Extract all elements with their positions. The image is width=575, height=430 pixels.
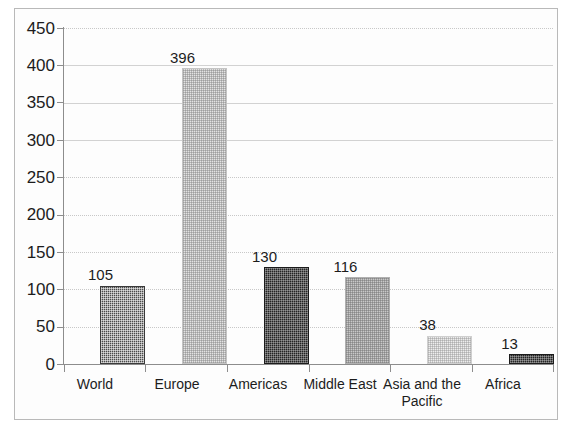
- category-label-europe: Europe: [136, 376, 218, 393]
- y-tick-label: 400: [15, 57, 55, 74]
- bar-americas[interactable]: [264, 267, 309, 364]
- category-label-asia-pacific: Asia and the Pacific: [381, 376, 463, 410]
- category-label-line: Europe: [136, 376, 218, 393]
- chart-frame: 450 400 350 300 250 200 150 100 50 0: [14, 8, 558, 420]
- x-axis-tick: [64, 365, 65, 372]
- bar-asia-pacific[interactable]: [427, 336, 472, 364]
- y-tick-label: 250: [15, 169, 55, 186]
- category-label-middle-east: Middle East: [299, 376, 381, 393]
- y-axis-labels: 450 400 350 300 250 200 150 100 50 0: [15, 9, 55, 430]
- y-tick-label: 200: [15, 206, 55, 223]
- y-tick-label: 350: [15, 94, 55, 111]
- bar-europe[interactable]: [182, 68, 227, 364]
- plot-area: [64, 28, 553, 364]
- bar-value-europe: 396: [160, 50, 205, 65]
- category-label-line: Middle East: [299, 376, 381, 393]
- bar-africa[interactable]: [509, 354, 554, 364]
- category-label-line: Asia and the: [381, 376, 463, 393]
- gridline-150: [64, 252, 553, 253]
- x-axis-tick: [227, 365, 228, 372]
- x-axis-tick: [390, 365, 391, 372]
- gridline-450: [64, 28, 553, 29]
- category-label-line: Americas: [217, 376, 299, 393]
- category-label-americas: Americas: [217, 376, 299, 393]
- bar-middle-east[interactable]: [345, 277, 390, 364]
- y-tick-label: 0: [15, 356, 55, 373]
- gridline-350: [64, 103, 553, 104]
- gridline-400: [64, 65, 553, 66]
- category-label-africa: Africa: [462, 376, 544, 393]
- y-tick-label: 450: [15, 20, 55, 37]
- bar-value-americas: 130: [242, 249, 287, 264]
- gridline-250: [64, 177, 553, 178]
- category-label-line: World: [54, 376, 136, 393]
- x-axis-tick: [145, 365, 146, 372]
- y-tick-label: 150: [15, 244, 55, 261]
- bar-value-asia-pacific: 38: [405, 317, 450, 332]
- y-tick-label: 50: [15, 318, 55, 335]
- bar-value-africa: 13: [487, 336, 532, 351]
- bar-value-middle-east: 116: [323, 259, 368, 274]
- bar-value-world: 105: [78, 267, 123, 282]
- gridline-200: [64, 215, 553, 216]
- y-tick-label: 100: [15, 281, 55, 298]
- y-tick-label: 300: [15, 132, 55, 149]
- x-axis-tick: [309, 365, 310, 372]
- bar-world[interactable]: [100, 286, 145, 364]
- category-label-world: World: [54, 376, 136, 393]
- category-label-line: Pacific: [381, 393, 463, 410]
- x-axis-tick: [472, 365, 473, 372]
- x-axis-tick: [553, 365, 554, 372]
- category-label-line: Africa: [462, 376, 544, 393]
- gridline-300: [64, 140, 553, 141]
